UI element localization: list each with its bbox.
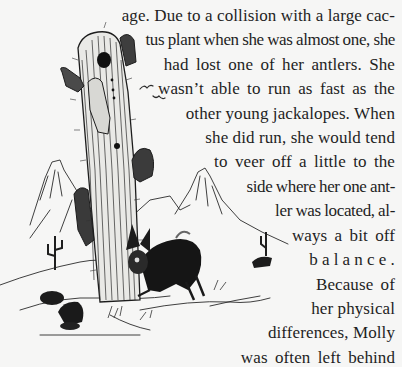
text-line: was often left behind	[241, 348, 395, 367]
text-line: her physical	[311, 299, 395, 319]
text-line: Because of	[316, 275, 395, 295]
text-line: balance.	[309, 250, 399, 270]
text-line: she did run, she would tend	[205, 128, 395, 148]
text-line: differences, Molly	[268, 323, 395, 343]
text-line: other young jackalopes. When	[186, 104, 395, 124]
text-line: wasn’t able to run as fast as the	[158, 79, 395, 99]
text-line: age. Due to a collision with a large cac…	[122, 6, 395, 26]
text-line: to veer off a little to the	[214, 152, 395, 172]
text-line: tus plant when she was almost one, she	[146, 30, 396, 50]
text-line: ways a bit off	[292, 226, 395, 246]
text-line: side where her one ant-	[246, 177, 395, 197]
text-line: had lost one of her antlers. She	[164, 55, 395, 75]
text-line: ler was located, al-	[275, 201, 395, 221]
